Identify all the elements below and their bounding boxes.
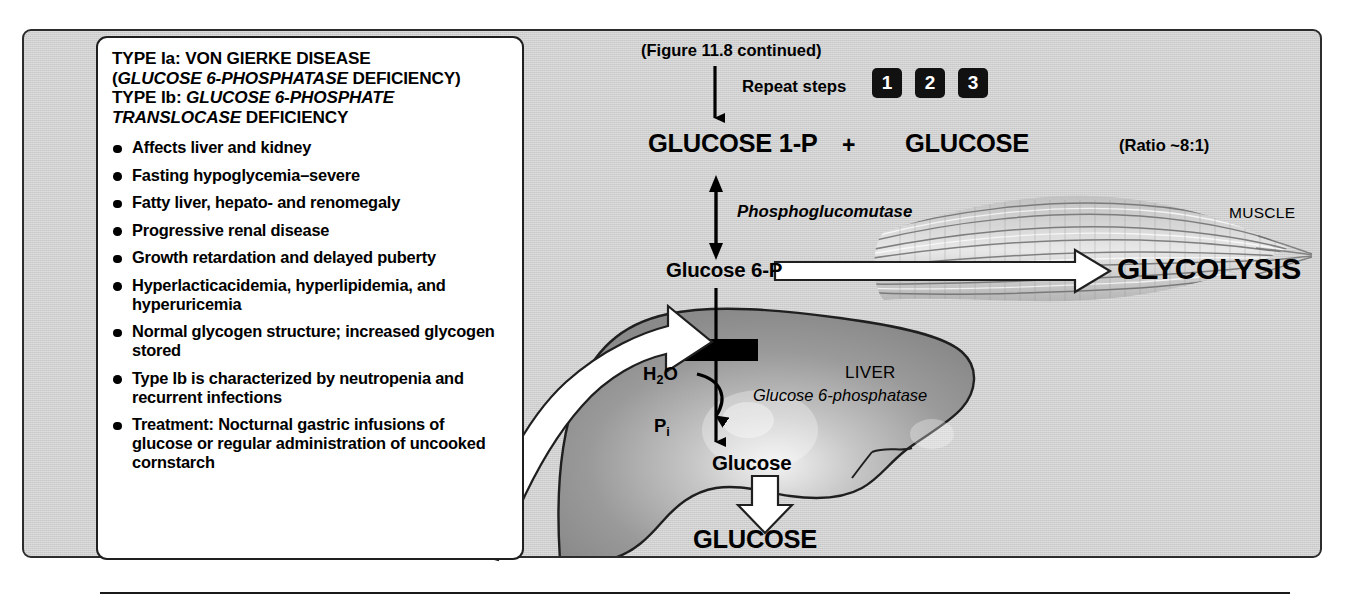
card-title-enzyme-1: GLUCOSE 6-PHOSPHATASE <box>118 68 348 88</box>
label-muscle: MUSCLE <box>1229 204 1295 222</box>
figure-root: TYPE Ia: VON GIERKE DISEASE (GLUCOSE 6-P… <box>0 0 1349 609</box>
label-glycolysis: GLYCOLYSIS <box>1117 252 1301 286</box>
list-item: Type Ib is characterized by neutropenia … <box>112 369 509 407</box>
card-title-line-1-text: TYPE Ia: VON GIERKE DISEASE <box>112 48 371 68</box>
label-phosphoglucomutase: Phosphoglucomutase <box>737 202 912 222</box>
step-badge-2: 2 <box>915 68 945 98</box>
label-glucose-liver: Glucose <box>712 451 792 475</box>
card-title-line-3: TYPE Ib: GLUCOSE 6-PHOSPHATE <box>112 88 509 108</box>
bottom-rule <box>100 592 1290 594</box>
label-inorganic-phosphate: Pi <box>654 415 670 439</box>
disease-info-card: TYPE Ia: VON GIERKE DISEASE (GLUCOSE 6-P… <box>96 36 524 560</box>
label-glucose-6-phosphatase: Glucose 6-phosphatase <box>753 386 927 405</box>
list-item: Affects liver and kidney <box>112 138 509 157</box>
label-glucose-top: GLUCOSE <box>905 129 1029 158</box>
list-item: Growth retardation and delayed puberty <box>112 248 509 267</box>
card-title-enzyme-2: GLUCOSE 6-PHOSPHATE <box>186 87 394 107</box>
list-item: Progressive renal disease <box>112 221 509 240</box>
card-title-enzyme-3: TRANSLOCASE <box>112 107 241 127</box>
label-glucose-1-phosphate: GLUCOSE 1-P <box>648 129 818 158</box>
symptom-list: Affects liver and kidney Fasting hypogly… <box>112 138 509 472</box>
list-item: Normal glycogen structure; increased gly… <box>112 322 509 360</box>
step-badge-1: 1 <box>872 68 902 98</box>
list-item: Fatty liver, hepato- and renomegaly <box>112 193 509 212</box>
step-badge-group: 1 2 3 <box>872 68 988 98</box>
list-item: Hyperlacticacidemia, hyperlipidemia, and… <box>112 276 509 314</box>
card-title-line-1: TYPE Ia: VON GIERKE DISEASE <box>112 49 509 69</box>
label-glucose-6-phosphate: Glucose 6-P <box>666 258 782 282</box>
card-title-line-4: TRANSLOCASE DEFICIENCY <box>112 108 509 128</box>
card-title: TYPE Ia: VON GIERKE DISEASE (GLUCOSE 6-P… <box>112 49 509 127</box>
list-item: Treatment: Nocturnal gastric infusions o… <box>112 415 509 472</box>
figure-caption: (Figure 11.8 continued) <box>641 41 822 60</box>
card-title-line-2: (GLUCOSE 6-PHOSPHATASE DEFICIENCY) <box>112 69 509 89</box>
repeat-steps-label: Repeat steps <box>742 77 846 97</box>
label-glucose-output: GLUCOSE <box>693 525 817 554</box>
label-liver: LIVER <box>845 363 896 383</box>
label-ratio: (Ratio ~8:1) <box>1119 136 1209 155</box>
list-item: Fasting hypoglycemia–severe <box>112 166 509 185</box>
step-badge-3: 3 <box>958 68 988 98</box>
label-plus-sign: + <box>842 132 855 159</box>
label-water: H2O <box>643 363 678 387</box>
